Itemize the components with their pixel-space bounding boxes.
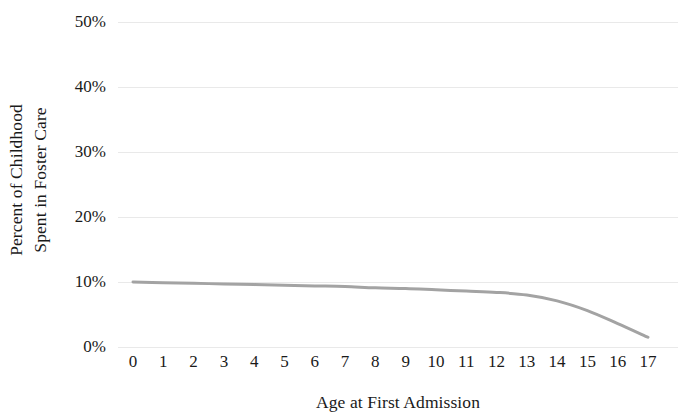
gridline [118, 347, 678, 348]
y-axis-tick-labels: 0%10%20%30%40%50% [52, 0, 114, 360]
x-axis-tick-label: 6 [311, 352, 320, 372]
x-axis-tick-label: 2 [189, 352, 198, 372]
x-axis-tick-label: 9 [401, 352, 410, 372]
y-axis-title: Percent of Childhood Spent in Foster Car… [0, 0, 56, 360]
y-axis-title-line-2: Spent in Foster Care [28, 104, 52, 256]
x-axis-tick-label: 12 [488, 352, 505, 372]
y-axis-tick-label: 40% [75, 77, 106, 97]
x-axis-tick-label: 0 [129, 352, 138, 372]
chart-figure: Percent of Childhood Spent in Foster Car… [0, 0, 681, 419]
y-axis-tick-label: 20% [75, 207, 106, 227]
x-axis-tick-label: 4 [250, 352, 259, 372]
x-axis-tick-label: 3 [220, 352, 229, 372]
y-axis-tick-label: 30% [75, 142, 106, 162]
x-axis-tick-labels: 01234567891011121314151617 [0, 352, 681, 382]
y-axis-tick-label: 10% [75, 272, 106, 292]
x-axis-tick-label: 14 [549, 352, 566, 372]
x-axis-tick-label: 16 [609, 352, 626, 372]
y-axis-tick-label: 50% [75, 12, 106, 32]
x-axis-tick-label: 13 [518, 352, 535, 372]
x-axis-tick-label: 5 [280, 352, 289, 372]
x-axis-tick-label: 15 [579, 352, 596, 372]
x-axis-tick-label: 1 [159, 352, 168, 372]
series-path [133, 282, 648, 337]
x-axis-title: Age at First Admission [118, 392, 678, 413]
data-series-line [118, 22, 678, 347]
x-axis-tick-label: 8 [371, 352, 380, 372]
x-axis-tick-label: 10 [427, 352, 444, 372]
x-axis-tick-label: 7 [341, 352, 350, 372]
plot-area [118, 22, 678, 347]
x-axis-tick-label: 11 [458, 352, 474, 372]
x-axis-tick-label: 17 [640, 352, 657, 372]
y-axis-title-line-1: Percent of Childhood [4, 104, 28, 256]
